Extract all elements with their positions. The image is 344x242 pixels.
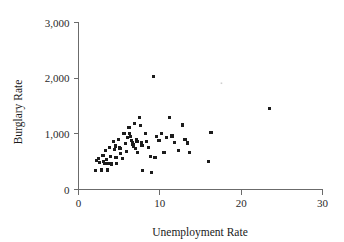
tick-labels-group: 01,0002,0003,0000102030 bbox=[45, 17, 329, 209]
data-point bbox=[141, 169, 144, 172]
data-point bbox=[173, 141, 176, 144]
scatter-plot-figure: 01,0002,0003,0000102030 Unemployment Rat… bbox=[0, 0, 344, 242]
data-point bbox=[105, 162, 108, 165]
axes-group bbox=[79, 23, 323, 190]
data-point bbox=[106, 168, 109, 171]
y-tick-label-2000: 2,000 bbox=[45, 72, 70, 84]
data-point bbox=[140, 144, 143, 147]
data-point bbox=[114, 156, 117, 159]
x-tick-label-20: 20 bbox=[236, 197, 248, 209]
data-point bbox=[147, 146, 150, 149]
faint-specks-group bbox=[221, 82, 223, 84]
data-point bbox=[115, 162, 118, 165]
data-point bbox=[112, 140, 115, 143]
data-point bbox=[177, 149, 180, 152]
x-axis-title: Unemployment Rate bbox=[152, 226, 248, 239]
data-point bbox=[152, 75, 155, 78]
x-tick-label-0: 0 bbox=[76, 197, 82, 209]
y-tick-label-3000: 3,000 bbox=[45, 17, 70, 29]
x-tick-label-30: 30 bbox=[317, 197, 329, 209]
data-point bbox=[118, 147, 121, 150]
data-point bbox=[117, 138, 120, 141]
data-point bbox=[186, 141, 189, 144]
data-point bbox=[127, 126, 130, 129]
data-point bbox=[209, 131, 212, 134]
data-point bbox=[98, 161, 101, 164]
data-point bbox=[109, 155, 112, 158]
data-point bbox=[122, 132, 125, 135]
data-point bbox=[188, 151, 191, 154]
data-point bbox=[138, 116, 141, 119]
data-point bbox=[119, 152, 122, 155]
data-point bbox=[133, 122, 136, 125]
data-point bbox=[268, 107, 271, 110]
data-point bbox=[126, 136, 129, 139]
data-point bbox=[108, 146, 111, 149]
data-points-group bbox=[94, 75, 271, 174]
data-point bbox=[113, 148, 116, 151]
data-point bbox=[129, 135, 132, 138]
data-point bbox=[97, 157, 100, 160]
plot-canvas: 01,0002,0003,0000102030 Unemployment Rat… bbox=[0, 0, 344, 242]
data-point bbox=[114, 144, 117, 147]
y-tick-label-0: 0 bbox=[64, 184, 70, 196]
data-point bbox=[181, 123, 184, 126]
data-point bbox=[136, 151, 139, 154]
data-point bbox=[134, 147, 137, 150]
data-point bbox=[155, 135, 158, 138]
data-point bbox=[100, 168, 103, 171]
data-point bbox=[165, 136, 168, 139]
data-point bbox=[157, 139, 160, 142]
print-speck bbox=[221, 82, 223, 84]
data-point bbox=[153, 156, 156, 159]
data-point bbox=[105, 158, 108, 161]
data-point bbox=[149, 155, 152, 158]
data-point bbox=[168, 116, 171, 119]
data-point bbox=[150, 171, 153, 174]
data-point bbox=[135, 140, 138, 143]
data-point bbox=[145, 140, 148, 143]
data-point bbox=[139, 124, 142, 127]
data-point bbox=[162, 151, 165, 154]
data-point bbox=[104, 149, 107, 152]
data-point bbox=[94, 169, 97, 172]
data-point bbox=[121, 157, 124, 160]
data-point bbox=[110, 163, 113, 166]
data-point bbox=[140, 141, 143, 144]
x-tick-label-10: 10 bbox=[154, 197, 166, 209]
data-point bbox=[101, 154, 104, 157]
data-point bbox=[183, 138, 186, 141]
data-point bbox=[170, 134, 173, 137]
y-tick-label-1000: 1,000 bbox=[45, 128, 70, 140]
data-point bbox=[207, 160, 210, 163]
data-point bbox=[160, 132, 163, 135]
y-axis-title: Burglary Rate bbox=[12, 80, 25, 145]
data-point bbox=[124, 142, 127, 145]
ticks-group bbox=[74, 23, 323, 195]
data-point bbox=[125, 150, 128, 153]
data-point bbox=[144, 132, 147, 135]
